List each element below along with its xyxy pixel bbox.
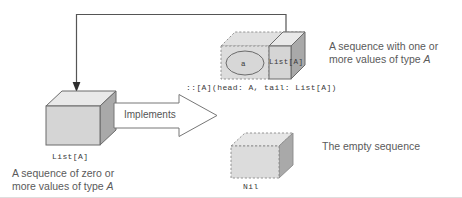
diagram-canvas: List[A] A sequence of zero or more value… [0,0,462,198]
list-box-caption: A sequence of zero or more values of typ… [12,167,114,193]
list-box-label: List[A] [52,152,88,161]
list-box-caption-line1: A sequence of zero or [12,167,114,180]
cons-cell-caption-line2: more values of type A [329,53,438,66]
cons-cell-caption-line2-text: more values of type [329,53,424,65]
list-box-3d [44,88,124,150]
list-box-caption-type-param: A [107,180,114,192]
nil-box-label: Nil [243,182,259,191]
cons-cell-box-3d [219,28,319,84]
nil-box-caption: The empty sequence [322,140,420,153]
cons-cell-signature: ::[A](head: A, tail: List[A]) [186,83,337,92]
cons-cell-caption-line1: A sequence with one or [329,40,438,53]
cons-cell-head-label: a [241,60,246,68]
list-box-caption-line2: more values of type A [12,180,114,193]
nil-box-3d [229,130,305,184]
implements-label: Implements [124,108,176,121]
cons-cell-caption: A sequence with one or more values of ty… [329,40,438,66]
list-box-caption-line2-text: more values of type [12,180,107,192]
cons-cell-caption-type-param: A [424,53,431,65]
cons-cell-tail-label: List[A] [269,58,303,66]
